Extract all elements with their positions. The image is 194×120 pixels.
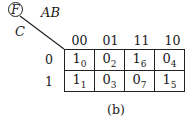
column-header: 11 [126, 33, 157, 48]
row-header: 1 [45, 74, 53, 89]
kmap-cell: 15 [155, 71, 185, 92]
kmap-cell: 07 [125, 71, 155, 92]
kmap-cell: 11 [65, 71, 95, 92]
column-header: 10 [157, 33, 188, 48]
kmap-cell: 04 [155, 50, 185, 71]
kmap-row: 11 03 07 15 [65, 71, 185, 92]
kmap-cell: 02 [95, 50, 125, 71]
row-variable: C [15, 24, 25, 39]
kmap-cell: 03 [95, 71, 125, 92]
column-header: 00 [64, 33, 95, 48]
row-header: 0 [45, 52, 53, 67]
karnaugh-map: 10 02 16 04 11 03 07 15 [64, 49, 185, 92]
kmap-row: 10 02 16 04 [65, 50, 185, 71]
kmap-cell: 10 [65, 50, 95, 71]
divider-line [20, 16, 64, 49]
column-variables: AB [41, 5, 60, 20]
column-header: 01 [95, 33, 126, 48]
kmap-cell: 16 [125, 50, 155, 71]
figure-caption: (b) [107, 102, 125, 117]
